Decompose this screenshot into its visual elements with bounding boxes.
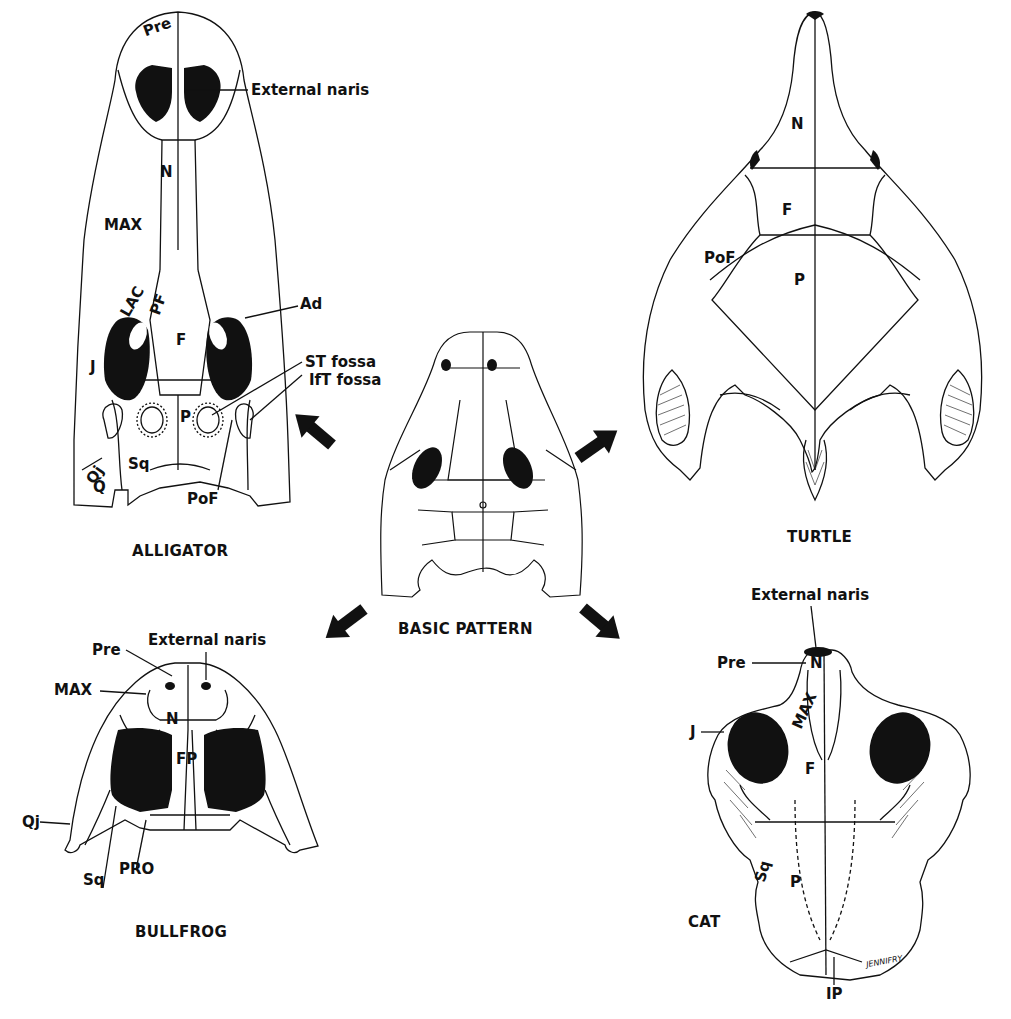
- bullfrog-label-pre: Pre: [92, 643, 121, 658]
- turtle-label-p: P: [794, 273, 805, 288]
- alligator-label-n: N: [160, 165, 173, 180]
- cat-label-f: F: [805, 762, 815, 777]
- arrow-down-right: [574, 597, 629, 649]
- cat-label-p: P: [790, 875, 801, 890]
- cat-caption: CAT: [688, 915, 721, 930]
- turtle-skull: [643, 12, 981, 500]
- bullfrog-label-qj: Qj: [22, 815, 40, 830]
- cat-skull: [708, 650, 970, 980]
- arrow-up-left: [286, 403, 341, 455]
- arrow-up-right: [570, 419, 625, 469]
- alligator-label-sq: Sq: [128, 457, 150, 472]
- bullfrog-label-n: N: [166, 712, 179, 727]
- alligator-label-q: Q: [93, 480, 106, 495]
- arrows: [286, 403, 629, 649]
- cat-fill: [720, 647, 939, 791]
- alligator-label-max: MAX: [104, 218, 142, 233]
- cat-label-pre: Pre: [717, 656, 746, 671]
- bullfrog-caption: BULLFROG: [135, 925, 227, 940]
- bullfrog-label-pro: PRO: [119, 862, 154, 877]
- arrow-down-left: [317, 598, 372, 649]
- alligator-label-f: F: [176, 333, 186, 348]
- basic-pattern-caption: BASIC PATTERN: [398, 622, 533, 637]
- cat-label-external-naris: External naris: [751, 588, 869, 603]
- bullfrog-label-max: MAX: [54, 683, 92, 698]
- bullfrog-label-external-naris: External naris: [148, 633, 266, 648]
- alligator-caption: ALLIGATOR: [132, 544, 228, 559]
- alligator-label-external-naris: External naris: [251, 83, 369, 98]
- alligator-label-ad: Ad: [300, 297, 322, 312]
- turtle-caption: TURTLE: [787, 530, 852, 545]
- alligator-label-j: J: [90, 360, 96, 375]
- bullfrog-label-fp: FP: [176, 752, 197, 767]
- alligator-label-st-fossa: ST fossa: [305, 355, 376, 370]
- alligator-leaders: [82, 90, 302, 490]
- cat-label-n: N: [810, 656, 823, 671]
- alligator-label-ift-fossa: IfT fossa: [309, 373, 381, 388]
- cat-label-j: J: [690, 725, 696, 740]
- turtle-label-n: N: [791, 117, 804, 132]
- cat-label-ip: IP: [826, 987, 843, 1002]
- basic-pattern-fill: [406, 359, 539, 493]
- turtle-label-pof: PoF: [704, 251, 736, 266]
- alligator-label-pof: PoF: [187, 492, 219, 507]
- bullfrog-label-sq: Sq: [83, 873, 105, 888]
- alligator-label-p: P: [180, 410, 191, 425]
- basic-pattern-skull: [381, 332, 582, 597]
- turtle-label-f: F: [782, 203, 792, 218]
- skull-comparison-figure: Pre External naris N MAX LAC PF Ad F J S…: [0, 0, 1011, 1019]
